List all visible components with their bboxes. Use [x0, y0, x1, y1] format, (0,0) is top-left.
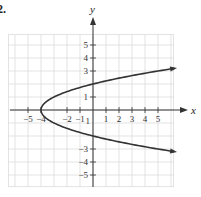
- y-tick-label: 1: [84, 92, 89, 102]
- x-tick-label: 1: [104, 114, 109, 124]
- x-axis-label: x: [190, 104, 196, 116]
- x-axis-arrow-icon: [180, 107, 188, 113]
- parabola-chart: xy −5−4−2−1123455431−3−4−51: [0, 0, 201, 197]
- x-tick-label: −5: [23, 114, 33, 124]
- y-tick-label: 4: [84, 53, 89, 63]
- y-tick-label: −5: [78, 170, 88, 180]
- axes: xy: [10, 3, 196, 187]
- x-tick-label: 3: [130, 114, 135, 124]
- x-tick-label: −2: [62, 114, 72, 124]
- y-tick-label: 3: [84, 66, 89, 76]
- y-tick-label-minus1: 1: [86, 116, 91, 126]
- x-tick-label: −4: [36, 114, 46, 124]
- grid-border: [9, 35, 174, 187]
- x-tick-label: 2: [117, 114, 122, 124]
- x-tick-label: −1: [75, 114, 85, 124]
- y-axis-arrow-icon: [90, 17, 96, 25]
- y-tick-label: −3: [78, 144, 88, 154]
- y-axis-label: y: [89, 3, 95, 15]
- y-tick-label: 5: [84, 40, 89, 50]
- x-tick-label: 5: [156, 114, 161, 124]
- grid: [9, 35, 174, 187]
- x-tick-label: 4: [143, 114, 148, 124]
- y-tick-label: −4: [78, 157, 88, 167]
